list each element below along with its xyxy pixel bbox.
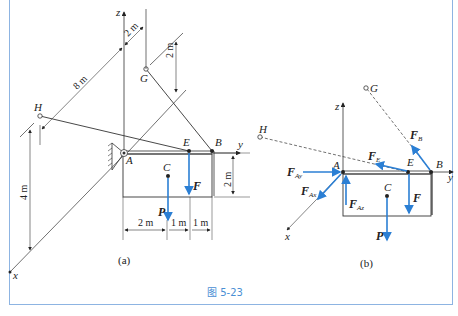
- dim-2m-bottom: 2 m: [138, 217, 154, 228]
- point-h-label-a: H: [33, 101, 43, 113]
- force-fax-arrow: [318, 174, 341, 199]
- cable-gb-a: [146, 69, 212, 151]
- point-c-label-a: C: [163, 161, 171, 173]
- dim-2m-height: 2 m: [222, 172, 233, 188]
- panel-b: z x y H G A E B C FAy FAx FAz FE: [258, 82, 453, 270]
- dim-2m-top: 2 m: [122, 20, 141, 39]
- force-fe-arrow: [376, 164, 407, 171]
- panel-a-label: (a): [118, 254, 131, 267]
- wall-support-a: [108, 143, 124, 170]
- force-f-label-a: F: [192, 179, 201, 193]
- force-f-label-b: F: [412, 191, 421, 205]
- point-b-label-b: B: [436, 158, 443, 170]
- point-e-label-a: E: [182, 136, 190, 148]
- x-axis-label-b: x: [284, 230, 290, 242]
- panel-a: z x y A H G: [9, 6, 251, 281]
- y-axis-label-a: y: [237, 138, 243, 150]
- point-e-label-b: E: [406, 156, 414, 168]
- force-fax-label: FAx: [300, 184, 317, 199]
- point-a-label-b: A: [332, 159, 340, 171]
- point-c-label-b: C: [384, 181, 392, 193]
- force-p-label-b: P: [376, 229, 384, 243]
- dim-2m-g: 2 m: [164, 43, 175, 59]
- force-fay-label: FAy: [286, 165, 303, 180]
- x-axis-a: [10, 155, 124, 272]
- x-axis-label-a: x: [12, 269, 18, 281]
- point-b-label-a: B: [215, 136, 222, 148]
- figure-caption: 图 5-23: [207, 287, 243, 298]
- point-a-label: A: [125, 154, 133, 166]
- force-fb-label: FB: [409, 128, 423, 143]
- dim-4m: 4 m: [18, 185, 29, 201]
- z-axis-label-b: z: [334, 100, 340, 112]
- y-axis-label-b: y: [447, 171, 453, 183]
- dim-1m-b: 1 m: [193, 217, 209, 228]
- panel-b-label: (b): [360, 257, 373, 270]
- z-axis-label-a: z: [115, 6, 121, 18]
- dim-1m-a: 1 m: [171, 217, 187, 228]
- force-fe-label: FE: [367, 149, 381, 164]
- force-p-label-a: P: [158, 205, 166, 219]
- figure-canvas: z x y A H G: [0, 0, 458, 316]
- force-faz-label: FAz: [348, 197, 364, 212]
- point-h-label-b: H: [258, 123, 268, 135]
- force-fb-arrow: [412, 146, 430, 170]
- point-g-label-b: G: [370, 82, 378, 94]
- point-g-label-a: G: [140, 72, 148, 84]
- dim-8m: 8 m: [71, 73, 90, 92]
- cable-he-a: [40, 116, 189, 151]
